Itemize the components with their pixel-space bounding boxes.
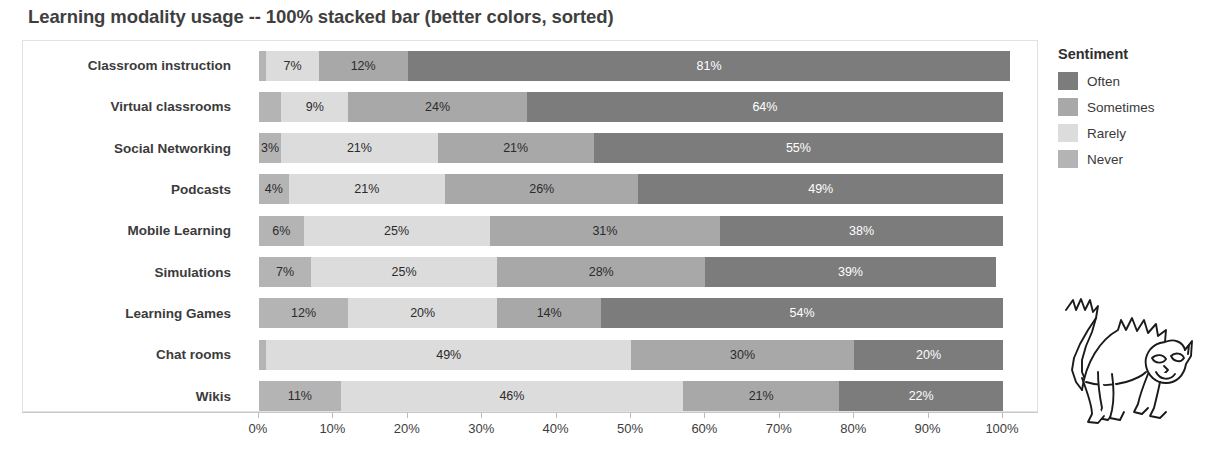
axis-tick: [779, 412, 780, 418]
axis-tick-label: 100%: [985, 421, 1018, 436]
bar-segment-rarely[interactable]: 21%: [289, 174, 445, 204]
bar-segment-rarely[interactable]: 9%: [281, 92, 348, 122]
legend: Sentiment OftenSometimesRarelyNever: [1058, 46, 1198, 172]
axis-tick-label: 80%: [840, 421, 866, 436]
category-label: Social Networking: [23, 141, 245, 156]
bar-segment-sometimes[interactable]: 26%: [445, 174, 638, 204]
category-label: Learning Games: [23, 306, 245, 321]
bar-segment-rarely[interactable]: 25%: [311, 257, 497, 287]
bar-segment-never[interactable]: [259, 92, 281, 122]
axis-tick: [630, 412, 631, 418]
segment-value-label: 54%: [790, 306, 815, 320]
bar-segment-often[interactable]: 49%: [638, 174, 1003, 204]
bar-segment-often[interactable]: 55%: [594, 133, 1003, 163]
legend-item-rarely[interactable]: Rarely: [1058, 120, 1198, 146]
bar-segment-rarely[interactable]: 46%: [341, 381, 683, 411]
bar-segment-never[interactable]: [259, 340, 266, 370]
segment-value-label: 64%: [752, 100, 777, 114]
bar-segment-sometimes[interactable]: 24%: [348, 92, 527, 122]
segment-value-label: 55%: [786, 141, 811, 155]
bar-segment-never[interactable]: 6%: [259, 216, 304, 246]
category-label: Simulations: [23, 265, 245, 280]
chart-page: Learning modality usage -- 100% stacked …: [0, 0, 1207, 466]
bar-segment-sometimes[interactable]: 14%: [497, 298, 601, 328]
segment-value-label: 6%: [272, 224, 290, 238]
axis-tick-label: 40%: [543, 421, 569, 436]
segment-value-label: 28%: [589, 265, 614, 279]
bar-segment-never[interactable]: 11%: [259, 381, 341, 411]
category-label: Virtual classrooms: [23, 99, 245, 114]
bar-segment-never[interactable]: 12%: [259, 298, 348, 328]
bar-segment-often[interactable]: 81%: [408, 51, 1011, 81]
bar-segment-rarely[interactable]: 20%: [348, 298, 497, 328]
bar-segment-rarely[interactable]: 25%: [304, 216, 490, 246]
axis-tick-label: 90%: [915, 421, 941, 436]
axis-tick: [258, 412, 259, 418]
axis-tick: [1002, 412, 1003, 418]
segment-value-label: 21%: [354, 182, 379, 196]
cat-line-drawing-icon: [1052, 286, 1202, 456]
segment-value-label: 12%: [291, 306, 316, 320]
bar-row: Social Networking3%21%21%55%: [23, 128, 1037, 169]
bar-row: Wikis11%46%21%22%: [23, 375, 1037, 416]
legend-item-label: Sometimes: [1087, 100, 1155, 115]
bar-segment-often[interactable]: 38%: [720, 216, 1003, 246]
bar-segment-never[interactable]: 3%: [259, 133, 281, 163]
bar-segment-sometimes[interactable]: 12%: [319, 51, 408, 81]
bar-segment-rarely[interactable]: 7%: [266, 51, 318, 81]
axis-line: [22, 412, 1038, 413]
bar-segment-often[interactable]: 64%: [527, 92, 1003, 122]
segment-value-label: 49%: [436, 348, 461, 362]
legend-swatch-icon: [1058, 124, 1078, 142]
bar-segment-rarely[interactable]: 49%: [266, 340, 631, 370]
bar-segment-never[interactable]: [259, 51, 266, 81]
bar-track: 6%25%31%38%: [259, 216, 1003, 246]
segment-value-label: 26%: [529, 182, 554, 196]
segment-value-label: 7%: [283, 59, 301, 73]
axis-tick-label: 0%: [249, 421, 268, 436]
bar-track: 4%21%26%49%: [259, 174, 1003, 204]
bar-row: Podcasts4%21%26%49%: [23, 169, 1037, 210]
category-label: Classroom instruction: [23, 58, 245, 73]
axis-tick-label: 20%: [394, 421, 420, 436]
legend-swatch-icon: [1058, 98, 1078, 116]
segment-value-label: 3%: [261, 141, 279, 155]
category-label: Mobile Learning: [23, 223, 245, 238]
bar-row: Learning Games12%20%14%54%: [23, 293, 1037, 334]
plot-area: Classroom instruction7%12%81%Virtual cla…: [22, 40, 1038, 412]
bar-segment-often[interactable]: 20%: [854, 340, 1003, 370]
bar-row: Classroom instruction7%12%81%: [23, 45, 1037, 86]
bar-track: 49%30%20%: [259, 340, 1003, 370]
legend-swatch-icon: [1058, 150, 1078, 168]
bar-segment-never[interactable]: 4%: [259, 174, 289, 204]
segment-value-label: 4%: [265, 182, 283, 196]
segment-value-label: 11%: [288, 389, 312, 403]
bar-segment-sometimes[interactable]: 21%: [438, 133, 594, 163]
legend-item-never[interactable]: Never: [1058, 146, 1198, 172]
bar-track: 11%46%21%22%: [259, 381, 1003, 411]
segment-value-label: 38%: [849, 224, 874, 238]
bar-segment-sometimes[interactable]: 28%: [497, 257, 705, 287]
axis-tick: [556, 412, 557, 418]
bar-segment-often[interactable]: 22%: [839, 381, 1003, 411]
bar-segment-sometimes[interactable]: 21%: [683, 381, 839, 411]
bar-track: 7%12%81%: [259, 51, 1003, 81]
segment-value-label: 39%: [838, 265, 863, 279]
bar-segment-sometimes[interactable]: 31%: [490, 216, 721, 246]
legend-item-label: Rarely: [1087, 126, 1126, 141]
category-label: Chat rooms: [23, 347, 245, 362]
segment-value-label: 30%: [730, 348, 755, 362]
segment-value-label: 21%: [347, 141, 372, 155]
legend-item-often[interactable]: Often: [1058, 68, 1198, 94]
axis-tick-label: 50%: [617, 421, 643, 436]
legend-item-sometimes[interactable]: Sometimes: [1058, 94, 1198, 120]
legend-title: Sentiment: [1058, 46, 1198, 62]
bar-segment-often[interactable]: 54%: [601, 298, 1003, 328]
bar-segment-often[interactable]: 39%: [705, 257, 995, 287]
bar-segment-sometimes[interactable]: 30%: [631, 340, 854, 370]
bar-segment-rarely[interactable]: 21%: [281, 133, 437, 163]
category-label: Podcasts: [23, 182, 245, 197]
axis-tick-label: 30%: [468, 421, 494, 436]
bar-track: 9%24%64%: [259, 92, 1003, 122]
bar-segment-never[interactable]: 7%: [259, 257, 311, 287]
